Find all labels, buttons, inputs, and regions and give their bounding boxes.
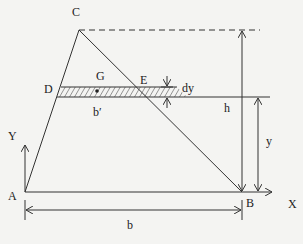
label-x-axis: X [288,197,297,211]
label-dy: dy [182,81,194,95]
centroid-dot [95,89,99,93]
label-b-prime: b′ [93,105,102,119]
diagram-svg: C G E D b′ dy h y Y A B X b [0,0,303,244]
triangle-strip-diagram: C G E D b′ dy h y Y A B X b [0,0,303,244]
label-e: E [140,73,147,87]
label-y-axis: Y [8,129,17,143]
label-h: h [224,101,230,115]
label-g: G [96,69,105,83]
side-ac [25,30,79,192]
hatched-strip [57,87,187,97]
label-d: D [44,82,53,96]
label-a: A [8,189,17,203]
label-c: C [72,5,80,19]
label-b-base: b [127,218,133,232]
label-y: y [266,134,272,148]
label-b-point: B [246,196,254,210]
side-cb [79,30,242,192]
